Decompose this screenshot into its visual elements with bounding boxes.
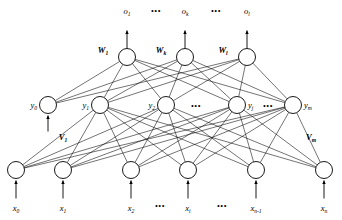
edge-input-hidden (107, 110, 181, 165)
input-node-x1[interactable] (55, 162, 72, 179)
input-node-xi[interactable] (180, 162, 197, 179)
output-ellipsis: ••• (151, 7, 161, 16)
input-label-xi: xi (184, 203, 191, 214)
output-node-ok[interactable] (177, 49, 194, 66)
input-label-xn-1: xn-1 (249, 203, 261, 214)
hidden-node-ym[interactable] (285, 97, 302, 114)
hidden-ellipsis: ••• (263, 102, 273, 111)
edge-input-hidden (239, 113, 253, 162)
output-node-ol[interactable] (239, 49, 256, 66)
input-node-xn1[interactable] (248, 162, 265, 179)
edge-hidden-output (253, 63, 287, 99)
hidden-node-yj[interactable] (229, 97, 246, 114)
edge-input-hidden (260, 112, 289, 162)
hidden-ellipsis: ••• (191, 102, 201, 111)
hidden-node-y1[interactable] (92, 97, 109, 114)
input-node-xn[interactable] (316, 162, 333, 179)
output-ellipsis: ••• (211, 7, 221, 16)
edge-input-hidden (24, 108, 158, 166)
output-label-ol: ol (244, 6, 250, 17)
neural-network-diagram: o1okolW1WkWlx0x1x2xixn-1xnV1Vmy0y1y2yjym… (0, 0, 342, 220)
edge-hidden-output (107, 61, 177, 101)
hidden-label-ym: ym (303, 100, 312, 111)
output-label-o1: o1 (123, 6, 130, 17)
node-group (8, 49, 333, 179)
hidden-node-y0[interactable] (40, 97, 57, 114)
edge-group-hidden-to-output (55, 59, 287, 103)
input-label-x2: x2 (127, 203, 135, 214)
input-node-x2[interactable] (123, 162, 140, 179)
edge-hidden-output (173, 61, 239, 100)
weight-label-V1: V1 (59, 132, 68, 143)
weight-label-Wl: Wl (218, 45, 228, 56)
input-ellipsis: ••• (155, 202, 165, 211)
hidden-node-y2[interactable] (158, 97, 175, 114)
output-label-ok: ok (182, 6, 189, 17)
edge-hidden-output (239, 65, 246, 96)
edge-input-hidden (174, 108, 316, 167)
weight-label-Vm: Vm (306, 132, 317, 143)
input-label-x0: x0 (12, 203, 20, 214)
edge-group-input-to-hidden (23, 107, 321, 168)
edge-input-hidden (108, 107, 316, 167)
hidden-label-yj: yj (247, 100, 254, 111)
input-label-x1: x1 (59, 203, 67, 214)
hidden-label-y0: y0 (29, 100, 37, 111)
input-node-x0[interactable] (8, 162, 25, 179)
output-node-o1[interactable] (119, 49, 136, 66)
weight-label-Wk: Wk (156, 45, 167, 56)
edge-input-hidden (108, 108, 248, 166)
input-ellipsis: ••• (217, 202, 227, 211)
weight-label-W1: W1 (98, 45, 109, 56)
edge-input-hidden (24, 107, 229, 167)
edge-input-hidden (169, 113, 186, 162)
edge-input-hidden (135, 112, 162, 162)
hidden-label-y1: y1 (81, 100, 89, 111)
edge-hidden-output (55, 61, 119, 100)
hidden-label-y2: y2 (147, 100, 155, 111)
edge-hidden-output (108, 60, 239, 103)
input-label-xn: xn (320, 203, 328, 214)
